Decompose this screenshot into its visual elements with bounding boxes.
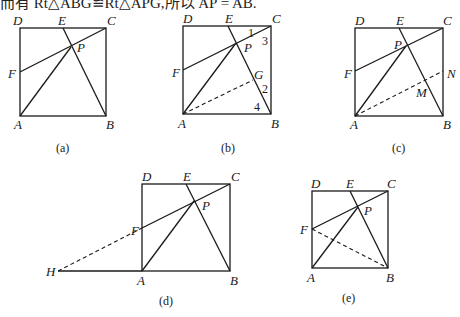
label-e: E <box>395 13 404 28</box>
caption-e: (e) <box>342 291 355 305</box>
label-a: A <box>306 270 315 285</box>
label-f: F <box>130 223 140 238</box>
label-d: D <box>182 11 193 26</box>
figure-e: D E C P F A B (e) <box>299 176 396 305</box>
label-c: C <box>387 176 396 191</box>
label-a: A <box>177 116 186 131</box>
segment-fc <box>142 184 230 228</box>
angle-label-1: 1 <box>248 26 254 40</box>
segment-hf-dashed <box>58 228 142 271</box>
angle-label-4: 4 <box>254 100 260 114</box>
figure-a: D E C P F A B (a) <box>7 13 116 155</box>
label-a: A <box>136 273 145 288</box>
segment-ag-dashed <box>183 80 253 114</box>
label-p: P <box>243 40 252 55</box>
label-p: P <box>363 203 372 218</box>
label-e: E <box>57 13 66 28</box>
label-p: P <box>201 198 210 213</box>
label-d: D <box>354 13 365 28</box>
square-abcd <box>142 184 230 271</box>
angle-label-2: 2 <box>262 82 268 96</box>
caption-b: (b) <box>221 141 235 155</box>
square-abcd <box>20 28 106 116</box>
label-m: M <box>415 85 428 100</box>
label-e: E <box>345 176 354 191</box>
segment-fc <box>183 26 271 70</box>
segment-fc <box>20 28 106 72</box>
angle-label-3: 3 <box>262 34 268 48</box>
segment-fc <box>312 191 388 229</box>
segment-an-dashed <box>355 71 443 116</box>
label-c: C <box>272 11 281 26</box>
label-a: A <box>349 117 358 132</box>
label-h: H <box>45 264 56 279</box>
label-b: B <box>106 117 114 132</box>
label-p: P <box>393 37 402 52</box>
label-c: C <box>107 13 116 28</box>
figure-b: D E C P G F A B 1 2 3 4 (b) <box>171 11 281 155</box>
label-c: C <box>443 13 452 28</box>
label-b: B <box>230 273 238 288</box>
label-f: F <box>343 66 353 81</box>
segment-ap <box>142 201 194 271</box>
figure-c: D E C P N M F A B (c) <box>343 13 457 155</box>
label-f: F <box>299 222 309 237</box>
segment-ap <box>20 47 71 116</box>
label-b: B <box>386 270 394 285</box>
label-d: D <box>310 176 321 191</box>
label-f: F <box>7 66 17 81</box>
label-g: G <box>254 67 264 82</box>
label-e: E <box>224 11 233 26</box>
segment-ap <box>183 43 236 114</box>
caption-a: (a) <box>56 141 69 155</box>
segment-ap <box>312 207 358 268</box>
segment-fb-dashed <box>312 229 388 268</box>
label-d: D <box>141 169 152 184</box>
label-a: A <box>13 117 22 132</box>
square-abcd <box>312 191 388 268</box>
caption-d: (d) <box>159 294 173 308</box>
label-d: D <box>12 13 23 28</box>
segment-ap <box>355 46 406 116</box>
label-f: F <box>171 65 181 80</box>
label-e: E <box>182 169 191 184</box>
figure-d: D E C P F H A B (d) <box>45 169 240 308</box>
label-n: N <box>446 66 457 81</box>
label-c: C <box>231 169 240 184</box>
label-p: P <box>76 40 85 55</box>
label-b: B <box>271 116 279 131</box>
segment-eb <box>399 28 443 116</box>
caption-c: (c) <box>392 141 405 155</box>
label-b: B <box>443 117 451 132</box>
geometry-figures: D E C P F A B (a) D E C P G F A B 1 2 3 … <box>0 0 460 317</box>
